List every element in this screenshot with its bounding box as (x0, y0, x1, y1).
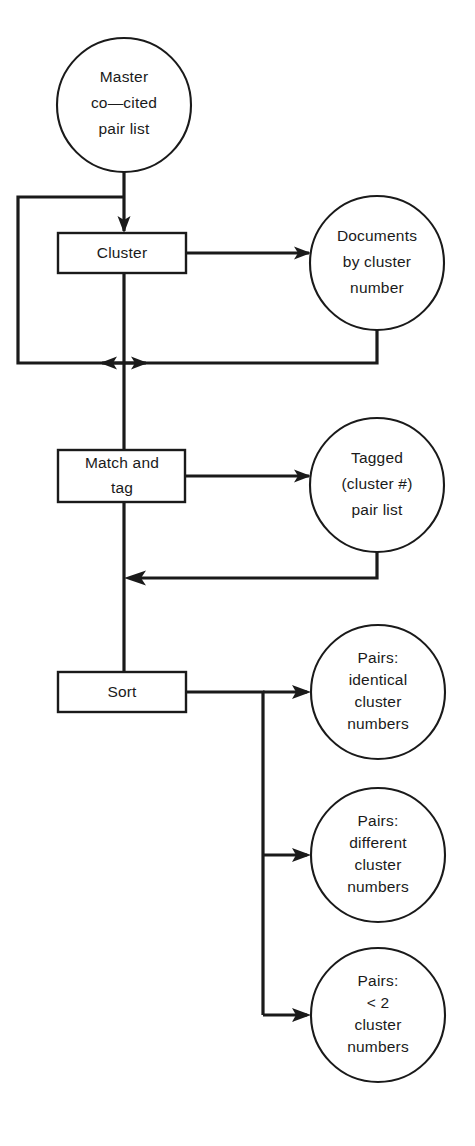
pairs-identical-label-line-3: cluster (354, 693, 401, 710)
pairs-fewer-than-two-label-line-1: Pairs: (358, 972, 399, 989)
node-documents-by-cluster[interactable]: Documents by cluster number (310, 196, 444, 330)
edge-sort-to-pairs-different (263, 848, 311, 862)
edge-match-to-tagged (185, 470, 311, 483)
edge-master-to-cluster (118, 172, 131, 233)
tagged-pair-list-label-line-3: pair list (352, 501, 403, 518)
master-list-label-line-1: Master (100, 68, 149, 85)
pairs-identical-label-line-4: numbers (347, 715, 409, 732)
node-cluster-process[interactable]: Cluster (58, 233, 186, 273)
node-sort-process[interactable]: Sort (58, 672, 186, 712)
pairs-identical-label-line-2: identical (349, 671, 408, 688)
cluster-process-label: Cluster (97, 244, 148, 261)
pairs-fewer-than-two-label-line-4: numbers (347, 1038, 409, 1055)
edge-cluster-to-documents (186, 247, 311, 260)
master-list-label-line-3: pair list (99, 120, 150, 137)
edge-sort-to-pairs-fewer-than-two (263, 1008, 311, 1022)
pairs-different-circle (311, 788, 445, 922)
edge-cluster-feedback-left (18, 197, 148, 370)
flowchart-diagram: Master co—cited pair list Cluster Docume… (0, 0, 475, 1146)
pairs-different-label-line-1: Pairs: (358, 812, 399, 829)
pairs-different-label-line-4: numbers (347, 878, 409, 895)
node-pairs-fewer-than-two[interactable]: Pairs: < 2 cluster numbers (311, 948, 445, 1082)
match-and-tag-process-label-line-2: tag (111, 479, 133, 496)
documents-by-cluster-label-line-1: Documents (337, 227, 417, 244)
node-tagged-pair-list[interactable]: Tagged (cluster #) pair list (310, 418, 444, 552)
edge-sort-to-pairs-identical (263, 685, 311, 699)
edge-tagged-return (124, 552, 377, 586)
node-pairs-identical[interactable]: Pairs: identical cluster numbers (311, 625, 445, 759)
edge-documents-return-right (100, 330, 377, 370)
edge-sort-branch-trunk (186, 692, 263, 1015)
documents-by-cluster-label-line-2: by cluster (343, 253, 411, 270)
pairs-fewer-than-two-label-line-2: < 2 (367, 994, 390, 1011)
node-match-and-tag-process[interactable]: Match and tag (58, 450, 185, 502)
node-pairs-different[interactable]: Pairs: different cluster numbers (311, 788, 445, 922)
pairs-identical-circle (311, 625, 445, 759)
flowchart-canvas: Master co—cited pair list Cluster Docume… (0, 0, 475, 1146)
pairs-identical-label-line-1: Pairs: (358, 649, 399, 666)
pairs-different-label-line-3: cluster (354, 856, 401, 873)
match-and-tag-process-label-line-1: Match and (85, 454, 159, 471)
node-master-list[interactable]: Master co—cited pair list (57, 38, 191, 172)
pairs-fewer-than-two-label-line-3: cluster (354, 1016, 401, 1033)
tagged-pair-list-label-line-1: Tagged (351, 449, 403, 466)
pairs-fewer-than-two-circle (311, 948, 445, 1082)
documents-by-cluster-label-line-3: number (350, 279, 404, 296)
master-list-label-line-2: co—cited (91, 94, 157, 111)
tagged-pair-list-label-line-2: (cluster #) (341, 475, 412, 492)
sort-process-label: Sort (107, 683, 137, 700)
pairs-different-label-line-2: different (349, 834, 407, 851)
